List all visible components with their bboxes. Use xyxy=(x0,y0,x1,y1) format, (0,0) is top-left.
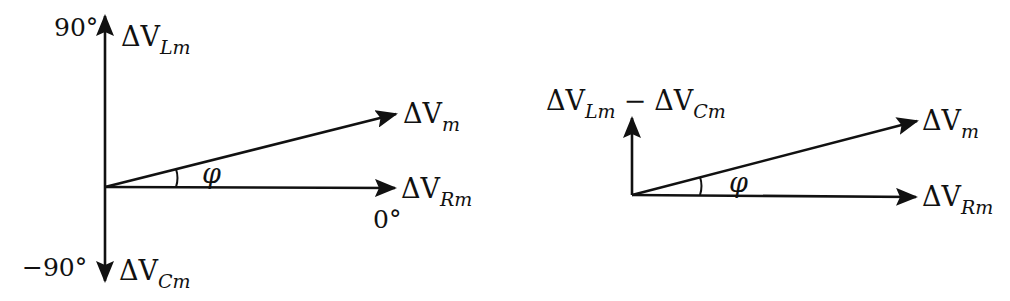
zero-angle-label: 0° xyxy=(373,205,401,234)
real-vector-label-right: ΔVRm xyxy=(922,181,993,218)
resultant-voltage-vector xyxy=(105,114,396,187)
net-reactive-vector-label: ΔVLm−ΔVCm xyxy=(546,85,726,122)
real-vector-label: ΔVRm xyxy=(401,173,472,210)
resultant-vector-label-right: ΔVm xyxy=(922,105,979,142)
resultant-voltage-vector-right xyxy=(632,121,917,195)
top-angle-label: 90° xyxy=(54,13,98,42)
resistive-voltage-vector xyxy=(105,187,395,188)
phase-angle-arc xyxy=(176,169,178,187)
resultant-vector-label: ΔVm xyxy=(403,98,460,135)
phase-angle-label: φ xyxy=(202,158,221,189)
phase-angle-label-right: φ xyxy=(729,167,748,198)
bottom-vector-label: ΔVCm xyxy=(119,255,191,292)
bottom-angle-label: −90° xyxy=(22,253,87,282)
top-vector-label: ΔVLm xyxy=(121,21,191,58)
phasor-diagram-canvas: 90° ΔVLm −90° ΔVCm ΔVm ΔVRm 0° φ ΔVLm−ΔV… xyxy=(0,0,1010,301)
phase-angle-arc-right xyxy=(700,177,702,195)
left-phasor-diagram: 90° ΔVLm −90° ΔVCm ΔVm ΔVRm 0° φ xyxy=(22,13,472,292)
resistive-voltage-vector-right xyxy=(632,195,916,197)
right-phasor-diagram: ΔVLm−ΔVCm ΔVm ΔVRm φ xyxy=(546,85,993,218)
